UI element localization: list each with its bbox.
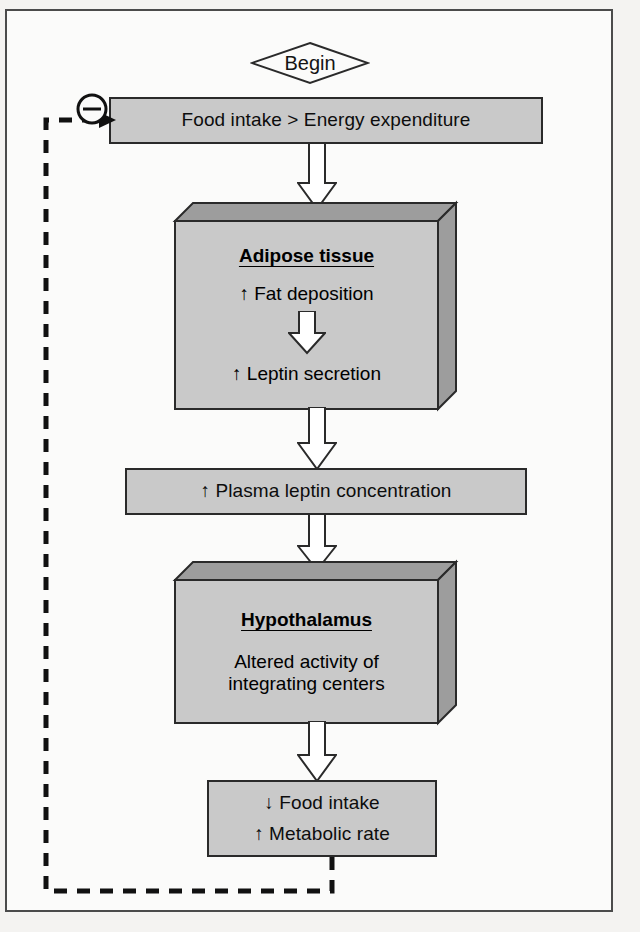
negative-feedback-path [7,11,611,910]
negative-feedback-icon [75,92,109,130]
diagram-frame: Begin Food intake > Energy expenditure A… [5,9,613,912]
diagram-page: Begin Food intake > Energy expenditure A… [0,0,640,932]
